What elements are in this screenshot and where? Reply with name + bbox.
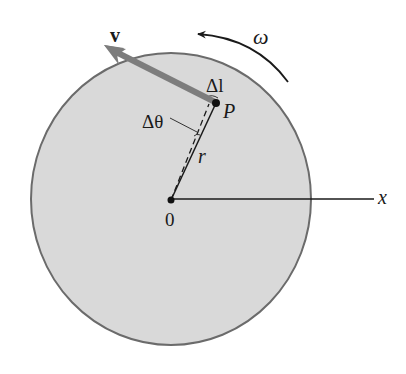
origin-label: 0 [165, 209, 175, 230]
point-P-label: P [222, 100, 235, 122]
point-P [212, 99, 220, 107]
x-axis-label: x [377, 186, 387, 208]
radius-label: r [198, 145, 206, 167]
arc-length-label: Δl [206, 75, 224, 96]
origin-point [168, 197, 175, 204]
angle-label: Δθ [142, 111, 163, 132]
velocity-label: v [110, 24, 120, 46]
omega-label: ω [253, 24, 269, 49]
rotating-disk-diagram: v ω Δl P Δθ r 0 x [0, 0, 406, 374]
